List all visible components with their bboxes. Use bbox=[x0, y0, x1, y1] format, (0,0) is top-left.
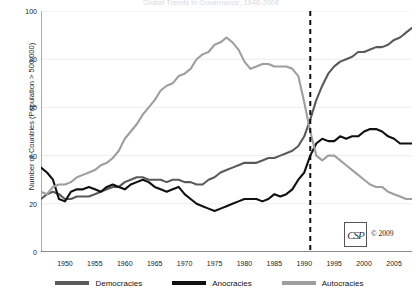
chart-title: Global Trends in Governance, 1946-2008 bbox=[46, 0, 376, 11]
y-tick-label: 100 bbox=[25, 8, 37, 15]
x-tick-label: 2005 bbox=[386, 260, 402, 267]
y-tick-label: 40 bbox=[29, 152, 37, 159]
y-tick-label: 60 bbox=[29, 104, 37, 111]
y-tick-label: 0 bbox=[33, 249, 37, 256]
copyright-text: © 2009 bbox=[371, 229, 394, 238]
x-tick-label: 1970 bbox=[177, 260, 193, 267]
plot-area: 020406080100 195019551960196519701975198… bbox=[41, 11, 412, 252]
csp-logo-mark: CSP bbox=[345, 223, 366, 246]
chart-figure: Global Trends in Governance, 1946-2008 N… bbox=[0, 0, 419, 295]
x-tick-label: 1980 bbox=[237, 260, 253, 267]
series-line-autocracies bbox=[41, 38, 412, 199]
legend-label-democracies: Democracies bbox=[95, 279, 142, 288]
x-tick-label: 1950 bbox=[57, 260, 73, 267]
csp-logo: CSP bbox=[344, 222, 367, 247]
legend-label-autocracies: Autocracies bbox=[322, 279, 364, 288]
legend-item-autocracies[interactable]: Autocracies bbox=[282, 279, 364, 288]
legend-item-democracies[interactable]: Democracies bbox=[55, 279, 142, 288]
y-tick-label: 80 bbox=[29, 56, 37, 63]
chart-canvas bbox=[41, 11, 412, 252]
x-tick-label: 1985 bbox=[267, 260, 283, 267]
chart-legend: Democracies Anocracies Autocracies bbox=[0, 275, 419, 291]
y-axis-label: Number of Countries (Population > 500,00… bbox=[27, 12, 36, 222]
x-tick-label: 1965 bbox=[147, 260, 163, 267]
legend-swatch-autocracies bbox=[282, 281, 316, 285]
x-tick-label: 1995 bbox=[326, 260, 342, 267]
x-tick-label: 1955 bbox=[87, 260, 103, 267]
x-tick-label: 1960 bbox=[117, 260, 133, 267]
legend-item-anocracies[interactable]: Anocracies bbox=[172, 279, 252, 288]
x-tick-label: 1990 bbox=[296, 260, 312, 267]
legend-label-anocracies: Anocracies bbox=[212, 279, 252, 288]
x-tick-label: 1975 bbox=[207, 260, 223, 267]
x-tick-label: 2000 bbox=[356, 260, 372, 267]
legend-swatch-anocracies bbox=[172, 281, 206, 285]
y-tick-label: 20 bbox=[29, 200, 37, 207]
legend-swatch-democracies bbox=[55, 281, 89, 285]
